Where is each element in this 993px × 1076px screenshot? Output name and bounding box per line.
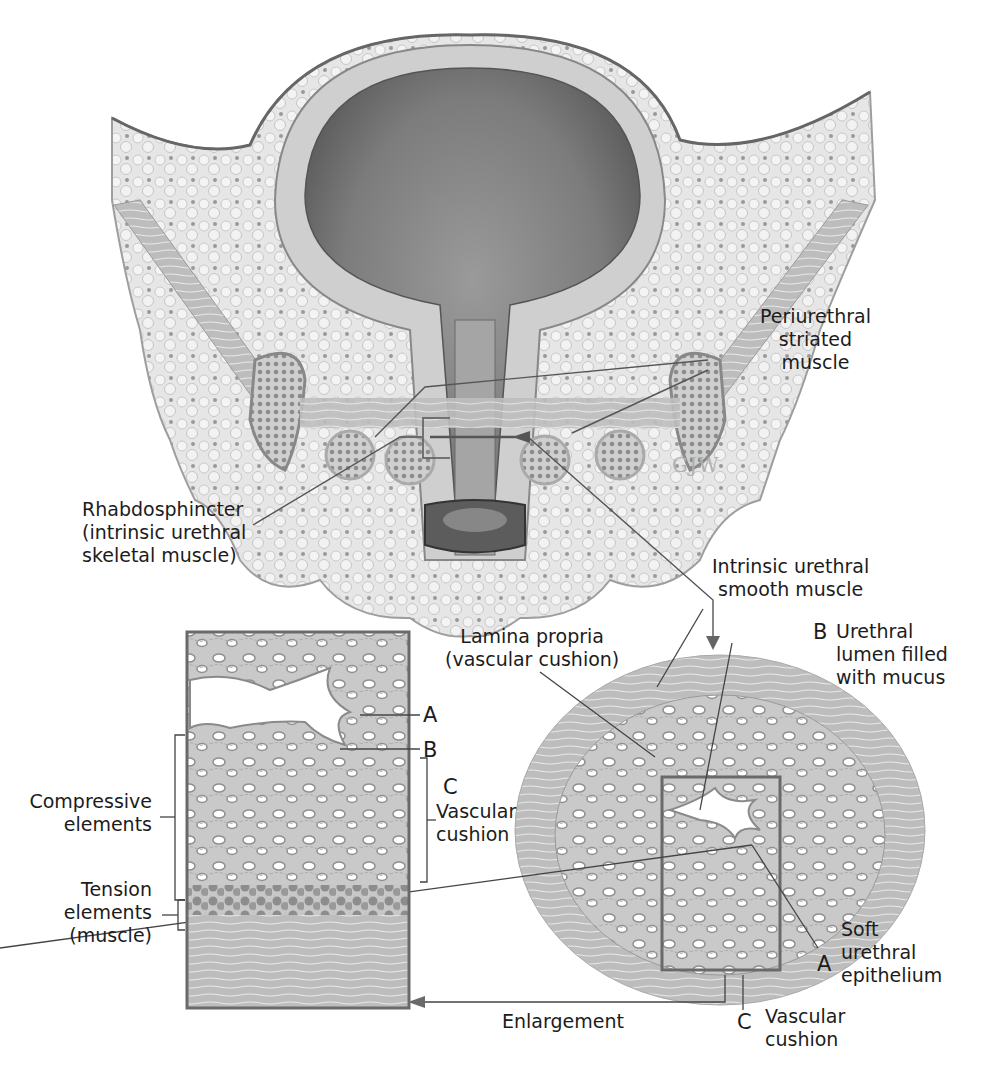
compressive-bracket (175, 735, 185, 900)
label-line: Vascular (436, 800, 516, 823)
label-vascular-cushion-bottom: Vascular cushion (765, 1005, 845, 1051)
label-soft-urethral-epithelium: Soft urethral epithelium (841, 918, 942, 987)
label-line: Tension (0, 878, 152, 901)
center-left-structure (386, 436, 434, 484)
inset-muscle-layer (187, 915, 409, 1008)
label-line: striated (760, 328, 871, 351)
label-enlargement: Enlargement (502, 1010, 624, 1033)
label-line: lumen filled (836, 643, 948, 666)
label-line: cushion (436, 823, 516, 846)
inset-label-a: A (423, 703, 437, 727)
label-line: Urethral (836, 620, 948, 643)
label-periurethral-striated-muscle: Periurethral striated muscle (760, 305, 871, 374)
label-rhabdosphincter: Rhabdosphincter (intrinsic urethral skel… (82, 498, 246, 567)
left-structure (326, 431, 374, 479)
enlarged-inset (187, 632, 409, 1008)
label-line: (intrinsic urethral (82, 521, 246, 544)
label-letter-c-cushion: C (737, 1010, 752, 1034)
label-line: (vascular cushion) (445, 648, 619, 671)
label-line: Rhabdosphincter (82, 498, 246, 521)
tension-bracket (178, 900, 185, 930)
label-line: urethral (841, 941, 942, 964)
vascular-cushion-bracket (420, 758, 427, 882)
smooth-muscle-arrowhead (706, 636, 720, 650)
inset-tension-band (187, 885, 409, 915)
enlargement-arrowhead (408, 996, 425, 1008)
label-line: Soft (841, 918, 942, 941)
label-letter-b-lumen: B (813, 620, 827, 644)
label-urethral-lumen: Urethral lumen filled with mucus (836, 620, 948, 689)
label-intrinsic-smooth-muscle: Intrinsic urethral smooth muscle (712, 555, 869, 601)
artist-signature: GJW (672, 453, 720, 477)
inset-label-b: B (423, 738, 437, 762)
label-line: skeletal muscle) (82, 544, 246, 567)
inset-label-c: C (443, 775, 458, 799)
label-tension-elements: Tension elements (muscle) (0, 878, 152, 947)
label-lamina-propria: Lamina propria (vascular cushion) (445, 625, 619, 671)
periurethral-muscle-band (300, 398, 680, 428)
label-compressive-elements: Compressive elements (0, 790, 152, 836)
label-line: cushion (765, 1028, 845, 1051)
label-line: (muscle) (0, 924, 152, 947)
label-line: elements (0, 901, 152, 924)
center-right-structure (521, 436, 569, 484)
inset-label-vascular-cushion: Vascular cushion (436, 800, 516, 846)
label-line: Periurethral (760, 305, 871, 328)
right-structure (596, 431, 644, 479)
label-line: smooth muscle (712, 578, 869, 601)
lamina-propria-ring (555, 695, 885, 975)
label-letter-a-epithelium: A (817, 952, 831, 976)
label-line: muscle (760, 351, 871, 374)
label-line: epithelium (841, 964, 942, 987)
label-line: elements (0, 813, 152, 836)
label-line: Intrinsic urethral (712, 555, 869, 578)
label-line: Vascular (765, 1005, 845, 1028)
label-line: Compressive (0, 790, 152, 813)
label-line: with mucus (836, 666, 948, 689)
label-line: Lamina propria (445, 625, 619, 648)
